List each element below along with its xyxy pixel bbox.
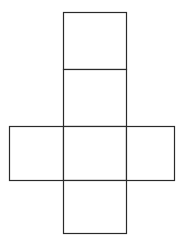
cube-face-top-1 (64, 13, 127, 70)
cube-face-left (10, 127, 64, 181)
cube-face-bottom (64, 181, 127, 234)
cube-face-center (64, 127, 127, 181)
cube-face-top-2 (64, 70, 127, 127)
cube-net-diagram (0, 0, 185, 246)
cube-face-right (127, 127, 175, 181)
